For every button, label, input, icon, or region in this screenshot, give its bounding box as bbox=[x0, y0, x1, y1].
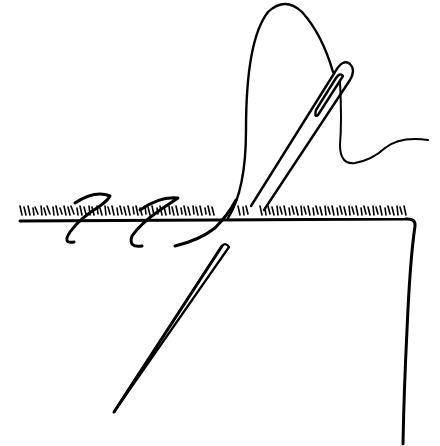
sewing-illustration bbox=[0, 0, 440, 446]
lower-needle-tip bbox=[114, 244, 229, 412]
needle-thread-drawing bbox=[0, 0, 440, 446]
upper-needle bbox=[251, 62, 353, 210]
fabric-fringe bbox=[20, 206, 406, 215]
thread-tail bbox=[340, 82, 428, 163]
